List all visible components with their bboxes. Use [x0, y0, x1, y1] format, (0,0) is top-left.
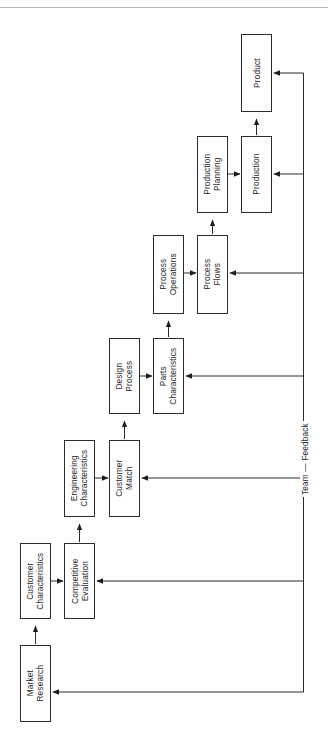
node-process-flows[interactable]: Process Flows	[197, 235, 228, 314]
node-label-parts-characteristics: Parts Characteristics	[158, 347, 178, 404]
node-label-market-research: Market Research	[25, 665, 45, 702]
node-label-production: Production	[251, 154, 261, 195]
node-label-process-flows: Process Flows	[202, 259, 222, 290]
node-label-process-operations: Process Operations	[158, 253, 178, 295]
node-engineering-characteristics[interactable]: Engineering Characteristics	[64, 440, 95, 517]
edge-label-team-feedback: Team — Feedback	[300, 421, 310, 497]
node-label-engineering-characteristics: Engineering Characteristics	[69, 450, 89, 507]
node-process-operations[interactable]: Process Operations	[153, 235, 184, 314]
node-customer-match[interactable]: Customer Match	[109, 440, 140, 517]
node-label-customer-match: Customer Match	[114, 460, 134, 497]
node-label-design-process: Design Process	[114, 360, 134, 391]
node-design-process[interactable]: Design Process	[109, 338, 140, 414]
node-market-research[interactable]: Market Research	[20, 645, 51, 722]
node-parts-characteristics[interactable]: Parts Characteristics	[153, 338, 184, 414]
node-customer-characteristics[interactable]: Customer Characteristics	[20, 543, 51, 619]
node-label-competitive-evaluation: Competitive Evaluation	[69, 558, 89, 603]
node-production-planning[interactable]: Production Planning	[197, 136, 228, 213]
node-competitive-evaluation[interactable]: Competitive Evaluation	[64, 543, 95, 619]
node-product[interactable]: Product	[241, 34, 272, 112]
diagram-canvas: Market Research Customer Characteristics…	[0, 0, 328, 745]
node-label-production-planning: Production Planning	[202, 154, 222, 195]
node-label-product: Product	[251, 58, 261, 88]
node-production[interactable]: Production	[241, 136, 272, 213]
node-label-customer-characteristics: Customer Characteristics	[25, 552, 45, 609]
